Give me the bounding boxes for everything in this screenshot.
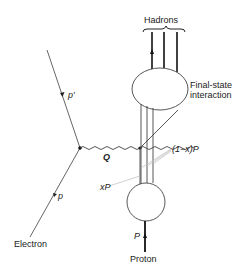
- outgoing-electron-line: [47, 50, 80, 148]
- proton-blob: [127, 183, 165, 221]
- hadrons-label: Hadrons: [144, 16, 178, 25]
- interaction-label: interaction: [190, 91, 232, 100]
- leader-line: [153, 151, 171, 164]
- p-prime-label: p′: [68, 91, 75, 100]
- leader-line: [109, 176, 140, 186]
- leader-line: [141, 149, 171, 168]
- incoming-electron-line: [30, 148, 80, 237]
- proton-label: Proton: [130, 255, 157, 264]
- big-p-label: P: [134, 232, 140, 241]
- arrow-icon: [53, 193, 57, 197]
- one-minus-x-p-label: (1−x)P: [172, 145, 199, 154]
- final-state-blob: [132, 68, 188, 110]
- struck-quark-line: [140, 110, 178, 148]
- arrow-icon: [60, 92, 65, 97]
- electron-label: Electron: [14, 240, 47, 249]
- xp-label: xP: [100, 183, 111, 192]
- final-state-label: Final-state: [190, 81, 232, 90]
- leader-line: [147, 150, 171, 166]
- hadrons-bracket: [143, 26, 185, 32]
- arrow-icon: [143, 233, 147, 238]
- p-label: p: [58, 192, 63, 201]
- arrow-icon: [150, 49, 154, 54]
- q-label: Q: [103, 153, 110, 162]
- feynman-diagram: [0, 0, 250, 271]
